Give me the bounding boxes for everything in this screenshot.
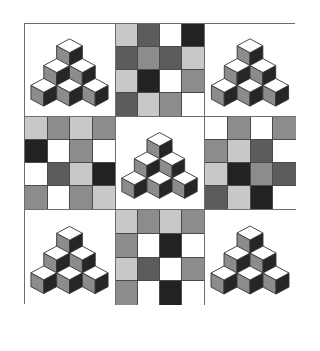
- tile-white: [205, 117, 228, 140]
- panel-bottom-center: [116, 210, 205, 305]
- tile-dark: [48, 163, 71, 186]
- tile-white: [160, 24, 182, 47]
- tile-mid: [48, 117, 71, 140]
- panel-top-right: [205, 24, 296, 117]
- tile-dark: [160, 47, 182, 70]
- cube-pyramid-icon: [25, 24, 115, 116]
- panel-bottom-left: [25, 210, 116, 305]
- tile-grid: [25, 117, 115, 209]
- tile-white: [138, 281, 160, 305]
- tile-dark: [138, 258, 160, 282]
- tile-black: [182, 24, 204, 47]
- tile-light: [70, 163, 93, 186]
- tile-mid: [160, 93, 182, 116]
- tile-mid: [182, 210, 204, 234]
- tile-black: [25, 140, 48, 163]
- panel-top-center: [116, 24, 205, 117]
- tile-mid: [116, 234, 138, 258]
- tile-mid: [25, 186, 48, 209]
- panel-middle-left: [25, 117, 116, 210]
- tile-mid: [273, 117, 296, 140]
- tile-light: [138, 93, 160, 116]
- tile-dark: [116, 47, 138, 70]
- tile-black: [138, 70, 160, 93]
- tile-dark: [138, 24, 160, 47]
- tile-light: [116, 258, 138, 282]
- tile-light: [116, 70, 138, 93]
- tile-light: [93, 186, 116, 209]
- tile-grid: [116, 210, 204, 305]
- tile-mid: [205, 140, 228, 163]
- tile-dark: [116, 93, 138, 116]
- panel-middle-right: [205, 117, 296, 210]
- tile-light: [116, 24, 138, 47]
- panel-center: [116, 117, 205, 210]
- tile-mid: [251, 163, 274, 186]
- tile-black: [160, 234, 182, 258]
- cube-pyramid-icon: [25, 210, 115, 305]
- puzzle-board: [24, 23, 295, 304]
- tile-light: [205, 163, 228, 186]
- tile-mid: [182, 258, 204, 282]
- panel-top-left: [25, 24, 116, 117]
- tile-light: [182, 47, 204, 70]
- cube-pyramid-icon: [116, 117, 204, 209]
- tile-grid: [116, 24, 204, 116]
- tile-mid: [70, 140, 93, 163]
- tile-white: [182, 281, 204, 305]
- tile-black: [251, 186, 274, 209]
- tile-light: [228, 140, 251, 163]
- tile-mid: [138, 210, 160, 234]
- tile-white: [25, 163, 48, 186]
- tile-white: [138, 234, 160, 258]
- tile-mid: [182, 70, 204, 93]
- tile-mid: [93, 117, 116, 140]
- tile-black: [160, 281, 182, 305]
- tile-black: [93, 163, 116, 186]
- tile-dark: [273, 163, 296, 186]
- tile-white: [160, 258, 182, 282]
- panel-bottom-right: [205, 210, 296, 305]
- tile-light: [160, 210, 182, 234]
- tile-dark: [251, 140, 274, 163]
- cube-pyramid-icon: [205, 24, 296, 116]
- tile-light: [228, 186, 251, 209]
- tile-mid: [228, 117, 251, 140]
- tile-white: [182, 234, 204, 258]
- tile-white: [160, 70, 182, 93]
- tile-mid: [70, 186, 93, 209]
- tile-white: [182, 93, 204, 116]
- tile-mid: [116, 281, 138, 305]
- tile-white: [251, 117, 274, 140]
- tile-mid: [138, 47, 160, 70]
- tile-white: [48, 140, 71, 163]
- tile-light: [70, 117, 93, 140]
- tile-dark: [205, 186, 228, 209]
- tile-white: [273, 186, 296, 209]
- tile-white: [273, 140, 296, 163]
- tile-light: [116, 210, 138, 234]
- tile-white: [48, 186, 71, 209]
- cube-pyramid-icon: [205, 210, 296, 305]
- tile-grid: [205, 117, 296, 209]
- tile-light: [25, 117, 48, 140]
- tile-white: [93, 140, 116, 163]
- tile-black: [228, 163, 251, 186]
